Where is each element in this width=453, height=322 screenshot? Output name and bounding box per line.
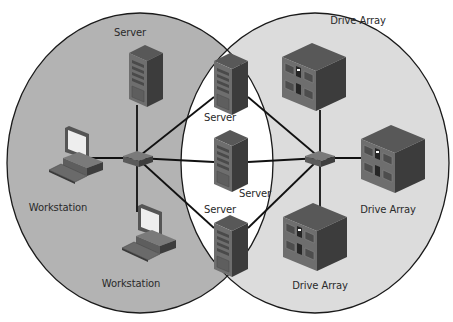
diagram-canvas — [0, 0, 453, 322]
server-mid-label: Server — [239, 188, 271, 199]
drive-array-icon — [361, 125, 425, 193]
server-icon — [214, 215, 248, 277]
workstation-left-label: Workstation — [29, 202, 88, 213]
drive-array-right-label: Drive Array — [360, 204, 416, 215]
server-bottom-mid-label: Server — [204, 204, 236, 215]
server-icon — [214, 130, 248, 192]
server-icon — [214, 53, 248, 115]
network-diagram: ServerServerServerServerWorkstationWorks… — [0, 0, 453, 322]
drive-array-bottom-label: Drive Array — [292, 280, 348, 291]
workstation-bottom-label: Workstation — [102, 278, 161, 289]
drive-array-icon — [282, 43, 346, 111]
server-top-mid-label: Server — [204, 112, 236, 123]
server-icon — [129, 45, 163, 107]
server-top-left-label: Server — [114, 27, 146, 38]
drive-array-top-label: Drive Array — [330, 15, 386, 26]
drive-array-icon — [283, 203, 347, 271]
